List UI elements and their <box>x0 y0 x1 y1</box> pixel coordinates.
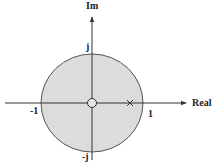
x-axis-label: Real <box>192 98 211 108</box>
pole-zero-plot <box>0 0 215 168</box>
y-axis-label: Im <box>86 1 98 11</box>
label-one: 1 <box>148 109 153 119</box>
label-j: j <box>86 42 89 52</box>
label-minus-one: -1 <box>30 106 38 116</box>
zero-marker <box>88 99 97 108</box>
label-minus-j: -j <box>82 152 89 162</box>
